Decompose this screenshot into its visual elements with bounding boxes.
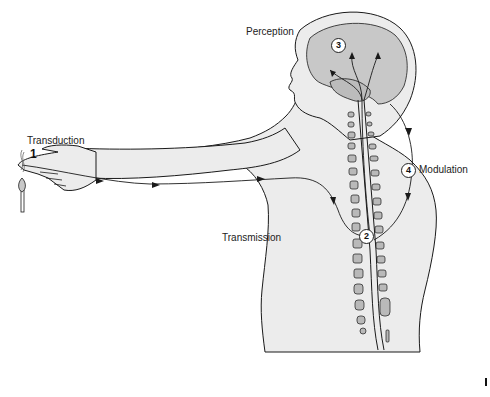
stage-badge-3: 3	[331, 38, 346, 53]
stage-badge-2: 2	[359, 229, 374, 244]
stage-label-modulation: Modulation	[419, 164, 468, 175]
stage-badge-4: 4	[401, 163, 416, 178]
lit-match-icon	[19, 150, 26, 212]
pain-pathway-illustration	[0, 0, 490, 397]
stage-label-transmission: Transmission	[222, 232, 281, 243]
stage-number-1: 1	[30, 147, 37, 161]
stage-label-perception: Perception	[246, 26, 294, 37]
page-edge-mark	[485, 378, 487, 386]
stage-label-transduction: Transduction	[27, 135, 84, 146]
